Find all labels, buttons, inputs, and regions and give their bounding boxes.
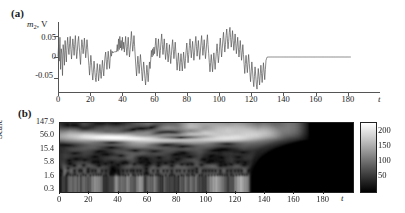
panel-b-ytick-label: 0.3 (18, 184, 54, 193)
signal-polyline (58, 27, 350, 89)
panel-a-timeseries: (a) m2, V 0.05 0 -0.05 t 020406080100120… (0, 0, 405, 103)
panel-b-ytick-label: 1.6 (18, 171, 54, 180)
panel-a-signal-plot (0, 0, 405, 103)
panel-a-xtick-label: 160 (305, 94, 327, 104)
panel-b-xtick-label: 140 (253, 194, 275, 204)
panel-a-x-axis-label: t (378, 94, 381, 104)
panel-b-xtick-label: 120 (224, 194, 246, 204)
panel-a-xtick-label: 0 (47, 94, 69, 104)
panel-a-xtick-label: 100 (208, 94, 230, 104)
panel-b-ytick-label: 147.9 (18, 117, 54, 126)
colorbar-tick-label: 100 (378, 155, 391, 165)
figure-root: (a) m2, V 0.05 0 -0.05 t 020406080100120… (0, 0, 405, 213)
panel-a-xtick-label: 140 (272, 94, 294, 104)
panel-a-xtick-label: 180 (337, 94, 359, 104)
colorbar-tick-label: 50 (378, 170, 387, 180)
panel-b-y-axis-label: Scale (0, 120, 4, 140)
panel-a-ytick-mark (54, 57, 58, 58)
panel-b-xtick-label: 100 (195, 194, 217, 204)
panel-b-ytick-label: 56.0 (18, 130, 54, 139)
scalogram-canvas (60, 123, 353, 192)
panel-b-xtick-label: 60 (136, 194, 158, 204)
panel-b-xtick-label: 20 (77, 194, 99, 204)
scalogram-image-frame (59, 122, 354, 193)
panel-a-ytick-mark (54, 36, 58, 37)
panel-a-xtick-label: 40 (111, 94, 133, 104)
panel-b-xtick-label: 160 (282, 194, 304, 204)
panel-b-xtick-label: 40 (107, 194, 129, 204)
panel-b-ytick-label: 15.4 (18, 144, 54, 153)
panel-a-xtick-label: 20 (79, 94, 101, 104)
panel-b-xtick-label: 180 (312, 194, 334, 204)
panel-b-ytick-label: 5.8 (18, 157, 54, 166)
colorbar-tick-label: 200 (378, 125, 391, 135)
panel-b-xtick-label: 80 (165, 194, 187, 204)
panel-b-xtick-label: 0 (48, 194, 70, 204)
panel-a-xtick-label: 80 (176, 94, 198, 104)
colorbar-tick-label: 150 (378, 140, 391, 150)
panel-a-xtick-label: 60 (144, 94, 166, 104)
colorbar (360, 122, 377, 193)
panel-a-xtick-label: 120 (240, 94, 262, 104)
panel-b-x-axis-label: t (341, 193, 344, 203)
panel-a-ytick-mark (54, 78, 58, 79)
